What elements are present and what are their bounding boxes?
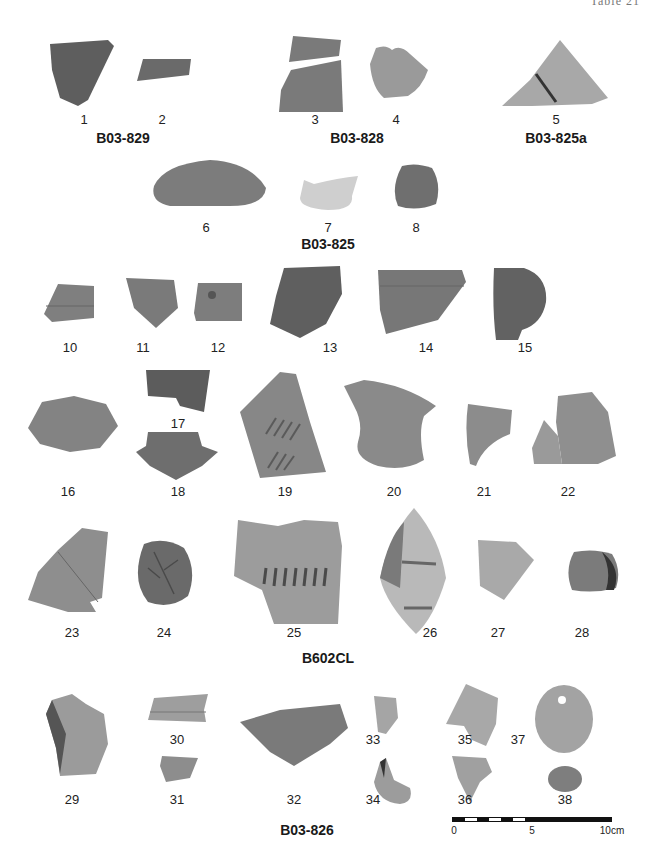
artifact-15-sherd — [492, 268, 548, 340]
artifact-number: 22 — [561, 484, 575, 499]
artifact-number: 3 — [311, 112, 318, 127]
artifact-18-sherd — [136, 432, 218, 480]
artifact-number: 1 — [80, 112, 87, 127]
artifact-7-fragment — [298, 176, 360, 210]
artifact-29-fragment — [46, 694, 108, 776]
artifact-number: 37 — [511, 732, 525, 747]
artifact-number: 13 — [323, 340, 337, 355]
group-label: B03-825 — [301, 236, 355, 252]
artifact-17-sherd — [146, 370, 212, 414]
artifact-21-fragment — [464, 404, 516, 466]
artifact-24-disc — [134, 540, 194, 606]
artifact-1-sherd — [48, 40, 116, 106]
artifact-33-sherd — [374, 696, 398, 734]
artifact-number: 16 — [61, 484, 75, 499]
scale-bar-line — [452, 817, 612, 822]
artifact-4-sherd — [370, 44, 428, 98]
artifact-number: 17 — [171, 416, 185, 431]
artifact-number: 11 — [136, 340, 150, 355]
artifact-8-bead — [392, 164, 440, 210]
artifact-16-sherd — [28, 396, 118, 452]
artifact-number: 18 — [171, 484, 185, 499]
page-header-text: Table 21 — [591, 0, 640, 9]
artifact-number: 32 — [287, 792, 301, 807]
artifact-11-sherd — [126, 278, 178, 328]
artifact-number: 36 — [458, 792, 472, 807]
artifact-number: 27 — [491, 625, 505, 640]
artifact-5-sherd — [502, 40, 610, 108]
artifact-25-sherd — [234, 520, 344, 624]
artifact-number: 25 — [287, 625, 301, 640]
artifact-number: 7 — [324, 220, 331, 235]
artifact-31-sherd — [160, 756, 198, 782]
artifact-number: 33 — [366, 732, 380, 747]
artifact-32-sherd — [240, 704, 350, 766]
artifact-number: 12 — [211, 340, 225, 355]
artifact-19-sherd — [240, 372, 326, 478]
artifact-38-bead — [548, 766, 582, 792]
group-label: B602CL — [302, 650, 354, 666]
artifact-number: 14 — [419, 340, 433, 355]
scale-label-0: 0 — [451, 825, 457, 836]
artifact-26-spindle — [380, 508, 448, 634]
artifact-number: 38 — [558, 792, 572, 807]
artifact-number: 5 — [552, 112, 559, 127]
artifact-number: 35 — [458, 732, 472, 747]
artifact-number: 29 — [65, 792, 79, 807]
artifact-12-sherd — [194, 283, 244, 323]
artifact-number: 31 — [170, 792, 184, 807]
artifact-number: 28 — [575, 625, 589, 640]
artifact-number: 6 — [202, 220, 209, 235]
scale-segment — [477, 818, 489, 821]
artifact-number: 34 — [366, 792, 380, 807]
artifact-number: 8 — [412, 220, 419, 235]
scale-segment — [453, 818, 465, 821]
artifact-number: 10 — [63, 340, 77, 355]
artifact-number: 26 — [423, 625, 437, 640]
artifact-22-fragment — [532, 392, 622, 468]
artifact-2-sherd — [137, 57, 193, 81]
group-label: B03-829 — [96, 130, 150, 146]
scale-bar: 0 5 10cm — [452, 817, 624, 847]
artifact-number: 4 — [392, 112, 399, 127]
artifact-14-sherd — [378, 270, 466, 334]
group-label: B03-825a — [525, 130, 587, 146]
artifact-20-spindle-whorl — [344, 380, 438, 470]
scale-segment — [525, 818, 611, 821]
scale-label-10cm: 10cm — [600, 825, 624, 836]
artifact-30-rim — [148, 694, 210, 724]
artifact-28-bead — [566, 550, 620, 592]
artifact-number: 30 — [170, 732, 184, 747]
artifact-number: 19 — [278, 484, 292, 499]
artifact-number: 15 — [518, 340, 532, 355]
artifact-number: 21 — [477, 484, 491, 499]
artifact-3-sherd — [279, 36, 345, 112]
artifact-number: 23 — [65, 625, 79, 640]
scale-label-5: 5 — [529, 825, 535, 836]
artifact-10-sherd — [44, 284, 96, 322]
artifact-13-sherd — [270, 266, 344, 338]
artifact-number: 2 — [158, 112, 165, 127]
artifact-number: 20 — [387, 484, 401, 499]
scale-segment — [501, 818, 513, 821]
group-label: B03-826 — [280, 822, 334, 838]
artifact-23-sherd — [28, 528, 110, 612]
group-label: B03-828 — [330, 130, 384, 146]
artifact-6-stone — [150, 158, 270, 208]
artifact-27-sherd — [476, 540, 534, 600]
artifact-37-perforated-disc — [534, 684, 594, 754]
artifact-number: 24 — [157, 625, 171, 640]
